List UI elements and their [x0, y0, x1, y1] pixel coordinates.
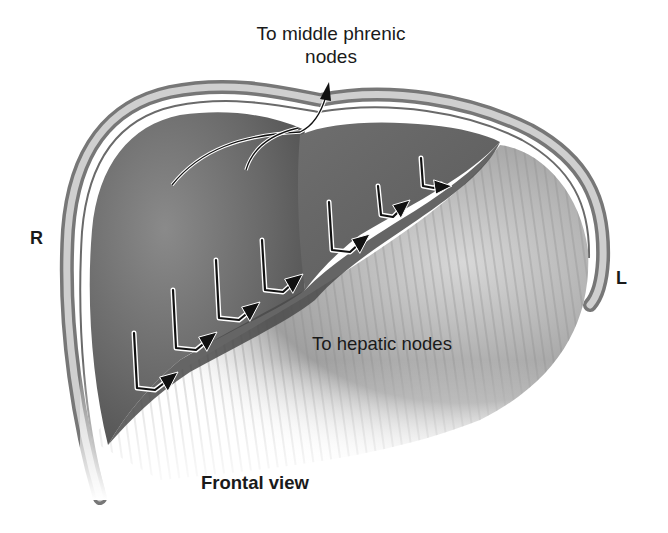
label-view: Frontal view	[201, 472, 309, 494]
label-phrenic-line1: To middle phrenic	[236, 22, 426, 45]
label-right-side: R	[30, 228, 43, 249]
liver-diagram	[0, 0, 668, 533]
label-phrenic-line2: nodes	[236, 45, 426, 68]
label-hepatic-nodes: To hepatic nodes	[312, 333, 452, 355]
label-middle-phrenic-nodes: To middle phrenic nodes	[236, 22, 426, 68]
label-left-side: L	[616, 268, 627, 289]
